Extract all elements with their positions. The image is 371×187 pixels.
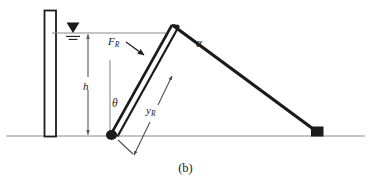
water-table-triangle-icon bbox=[66, 23, 80, 40]
resultant-force-leader-arrow bbox=[126, 42, 144, 55]
left-wall bbox=[45, 11, 57, 137]
inclined-gate bbox=[110, 25, 179, 137]
figure-caption: (b) bbox=[0, 161, 371, 176]
gate-angle-label: θ bbox=[112, 98, 118, 110]
apex-angle-label: α bbox=[196, 38, 202, 50]
pressure-center-depth-label: yR bbox=[146, 105, 155, 117]
figure-container: FR α θ yR h (b) bbox=[0, 0, 371, 187]
hinge-pivot-icon bbox=[106, 130, 117, 140]
water-depth-label: h bbox=[83, 81, 89, 92]
support-block-icon bbox=[311, 127, 324, 137]
hydrostatic-gate-diagram bbox=[0, 0, 371, 187]
resultant-force-label: FR bbox=[108, 36, 119, 48]
